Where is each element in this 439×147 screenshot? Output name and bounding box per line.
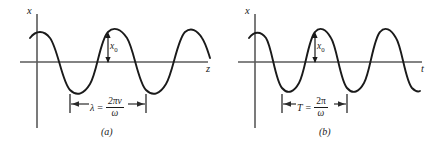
- panel-a-fraction-denominator: ω: [109, 108, 120, 118]
- panel-b-period-symbol: T: [297, 103, 303, 113]
- panel-a-equals-sign: =: [97, 103, 103, 113]
- panel-a-plot: [0, 0, 219, 147]
- panel-b: x t x0 T = 2π ω (b): [220, 0, 439, 147]
- panel-a-fraction-numerator: 2πv: [106, 97, 124, 108]
- panel-b-fraction: 2π ω: [314, 97, 328, 118]
- wave-figure: x z x0 λ = 2πv ω (a): [0, 0, 439, 147]
- panel-a: x z x0 λ = 2πv ω (a): [0, 0, 219, 147]
- panel-b-wave-curve: [249, 29, 420, 92]
- panel-a-vertical-axis-label: x: [27, 6, 32, 17]
- panel-b-amplitude-label: x0: [317, 42, 325, 54]
- panel-a-amplitude-subscript: 0: [114, 46, 117, 53]
- panel-b-plot: [220, 0, 439, 147]
- panel-a-caption: (a): [101, 127, 113, 137]
- panel-a-dim-arrow-left: [72, 101, 79, 107]
- panel-b-equals-sign: =: [306, 103, 312, 113]
- panel-a-lambda-symbol: λ: [90, 103, 94, 113]
- panel-b-dim-arrow-right: [338, 101, 345, 107]
- panel-b-horizontal-axis-label: t: [421, 64, 424, 75]
- panel-a-horizontal-axis-label: z: [206, 64, 210, 75]
- panel-b-fraction-denominator: ω: [316, 108, 327, 118]
- panel-b-period-formula: T = 2π ω: [297, 97, 328, 118]
- panel-a-wavelength-formula: λ = 2πv ω: [90, 97, 124, 118]
- panel-a-dim-arrow-right: [137, 101, 144, 107]
- panel-b-vertical-axis-label: x: [245, 6, 250, 17]
- panel-b-fraction-numerator: 2π: [314, 97, 328, 108]
- panel-b-caption: (b): [319, 127, 331, 137]
- panel-a-amplitude-label: x0: [110, 42, 118, 54]
- panel-b-amplitude-subscript: 0: [321, 46, 324, 53]
- panel-a-fraction: 2πv ω: [106, 97, 124, 118]
- panel-b-dim-arrow-left: [284, 101, 291, 107]
